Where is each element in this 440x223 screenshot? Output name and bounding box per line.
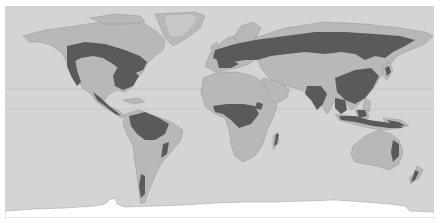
world-map-svg: [5, 6, 434, 218]
world-map: [5, 6, 434, 218]
